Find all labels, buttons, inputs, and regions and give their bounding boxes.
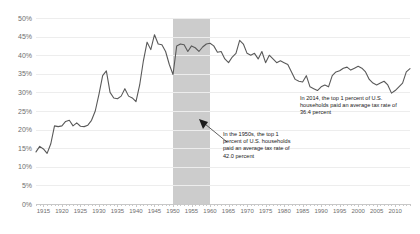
x-tick: [95, 204, 96, 206]
x-tick: [66, 204, 67, 206]
x-tick: [236, 204, 237, 206]
x-tick: [254, 204, 255, 206]
x-tick: [314, 204, 315, 206]
x-tick: [62, 204, 63, 207]
x-tick: [329, 204, 330, 206]
y-tick-label: 25%: [0, 108, 32, 115]
x-tick: [410, 204, 411, 206]
x-tick: [210, 204, 211, 207]
x-tick: [36, 204, 37, 206]
x-tick: [129, 204, 130, 206]
x-tick: [151, 204, 152, 206]
x-tick: [184, 204, 185, 206]
x-tick: [173, 204, 174, 207]
x-tick: [395, 204, 396, 207]
chart-figure: 0%5%10%15%20%25%30%35%40%45%50% 19151920…: [0, 0, 420, 234]
x-tick: [336, 204, 337, 206]
x-tick: [269, 204, 270, 206]
x-tick: [80, 204, 81, 207]
x-tick: [303, 204, 304, 207]
x-tick: [347, 204, 348, 206]
x-tick: [273, 204, 274, 206]
x-tick: [51, 204, 52, 206]
x-tick: [206, 204, 207, 206]
x-tick: [132, 204, 133, 206]
x-tick: [199, 204, 200, 206]
x-tick: [332, 204, 333, 206]
x-tick: [277, 204, 278, 206]
y-tick-label: 30%: [0, 89, 32, 96]
x-tick: [229, 204, 230, 207]
x-tick: [295, 204, 296, 206]
x-tick: [125, 204, 126, 206]
x-tick: [232, 204, 233, 206]
x-tick: [136, 204, 137, 207]
x-tick: [247, 204, 248, 207]
x-tick: [262, 204, 263, 206]
x-tick: [177, 204, 178, 206]
x-tick: [140, 204, 141, 206]
x-tick: [69, 204, 70, 206]
x-tick: [362, 204, 363, 206]
x-tick: [369, 204, 370, 206]
y-tick-label: 35%: [0, 70, 32, 77]
x-tick: [391, 204, 392, 206]
x-tick: [221, 204, 222, 206]
x-tick: [110, 204, 111, 206]
x-tick: [340, 204, 341, 207]
x-tick: [299, 204, 300, 206]
x-tick: [306, 204, 307, 206]
x-tick: [58, 204, 59, 206]
x-tick: [162, 204, 163, 206]
x-tick: [77, 204, 78, 206]
x-tick-label: 2010: [383, 208, 407, 215]
x-tick: [388, 204, 389, 206]
x-tick: [188, 204, 189, 206]
x-tick: [358, 204, 359, 207]
x-tick: [158, 204, 159, 206]
x-tick: [343, 204, 344, 206]
x-tick: [366, 204, 367, 206]
x-tick: [73, 204, 74, 206]
x-tick: [180, 204, 181, 206]
x-tick: [266, 204, 267, 207]
x-tick: [195, 204, 196, 206]
x-tick: [147, 204, 148, 206]
x-tick: [103, 204, 104, 206]
x-tick: [121, 204, 122, 206]
x-tick: [380, 204, 381, 206]
x-tick: [240, 204, 241, 206]
x-tick: [169, 204, 170, 206]
y-tick-label: 15%: [0, 145, 32, 152]
x-tick: [406, 204, 407, 206]
x-tick: [192, 204, 193, 207]
y-tick-label: 20%: [0, 126, 32, 133]
x-tick: [351, 204, 352, 206]
x-tick: [317, 204, 318, 206]
x-tick: [117, 204, 118, 207]
y-tick-label: 45%: [0, 33, 32, 40]
x-tick: [280, 204, 281, 206]
x-tick: [288, 204, 289, 206]
x-tick: [251, 204, 252, 206]
x-tick: [403, 204, 404, 206]
annotation-1950s: In the 1950s, the top 1 percent of U.S. …: [223, 131, 295, 160]
x-tick: [99, 204, 100, 207]
y-tick-label: 10%: [0, 163, 32, 170]
x-tick: [203, 204, 204, 206]
annotation-arrow-icon: [195, 118, 229, 144]
x-tick: [384, 204, 385, 206]
x-tick: [43, 204, 44, 207]
y-tick-label: 40%: [0, 52, 32, 59]
x-tick: [217, 204, 218, 206]
y-tick-label: 5%: [0, 182, 32, 189]
x-tick: [325, 204, 326, 206]
x-tick: [321, 204, 322, 207]
annotation-2014: In 2014, the top 1 percent of U.S. house…: [300, 95, 404, 117]
y-tick-label: 50%: [0, 15, 32, 22]
x-tick: [106, 204, 107, 206]
x-tick: [47, 204, 48, 206]
x-tick: [88, 204, 89, 206]
x-tick: [377, 204, 378, 207]
x-tick: [84, 204, 85, 206]
